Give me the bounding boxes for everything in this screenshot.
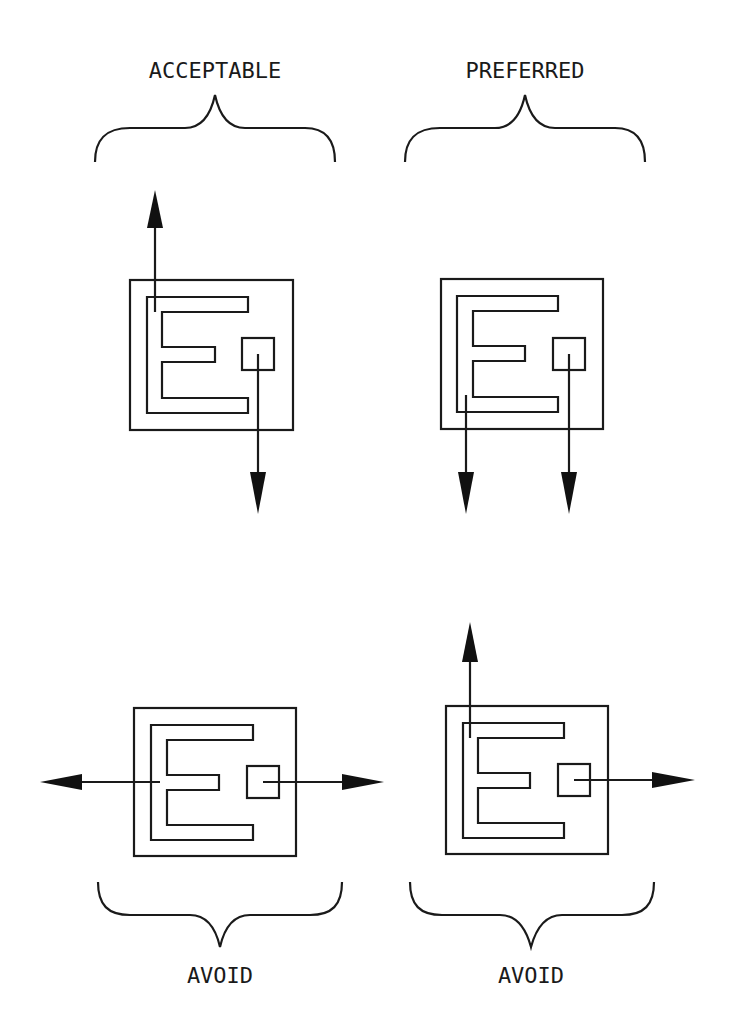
arrow-up-icon	[462, 622, 478, 662]
acceptable-label: ACCEPTABLE	[149, 58, 281, 83]
acceptable-brace-icon	[95, 95, 335, 162]
panel-preferred: PREFERRED	[405, 58, 645, 514]
arrow-left-icon	[40, 774, 82, 790]
avoid-label: AVOID	[187, 963, 253, 988]
arrow-down-icon	[458, 472, 474, 514]
arrow-right-icon	[342, 774, 384, 790]
arrow-down-icon	[250, 472, 266, 514]
lead-orientation-diagram: ACCEPTABLE PREFERRED	[0, 0, 730, 1036]
preferred-label: PREFERRED	[465, 58, 584, 83]
avoid-brace-icon	[98, 882, 342, 947]
e-electrode-icon	[457, 296, 558, 412]
e-electrode-icon	[147, 297, 248, 413]
arrow-up-icon	[147, 190, 163, 228]
panel-acceptable: ACCEPTABLE	[95, 58, 335, 514]
arrow-right-icon	[652, 772, 695, 788]
arrow-down-icon	[561, 472, 577, 514]
panel-avoid-mixed: AVOID	[410, 622, 695, 988]
e-electrode-icon	[151, 725, 253, 840]
avoid-brace-icon	[410, 882, 654, 947]
preferred-brace-icon	[405, 95, 645, 162]
panel-avoid-horizontal: AVOID	[40, 708, 384, 988]
e-electrode-icon	[463, 723, 564, 838]
avoid-label: AVOID	[498, 963, 564, 988]
